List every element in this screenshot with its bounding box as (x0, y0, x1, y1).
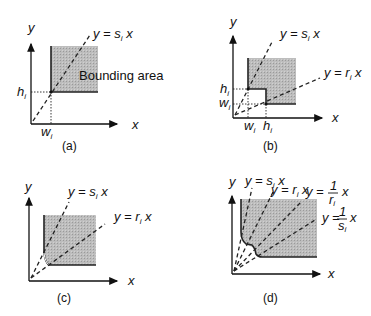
y-axis-label: y (228, 174, 237, 189)
panel-a: y x y = si x Bounding area hi wi (a) (17, 20, 164, 153)
line-si-label: y = si x (92, 26, 133, 43)
x-axis-label: x (331, 110, 339, 125)
corner-point (246, 87, 249, 90)
w-tick-label: wi (244, 118, 255, 135)
caption-b: (b) (263, 139, 278, 153)
caption-a: (a) (62, 139, 77, 153)
figure-canvas: y x y = si x Bounding area hi wi (a) y x… (0, 0, 371, 316)
label-suffix: x (341, 184, 349, 199)
x-axis-label: x (127, 273, 135, 288)
fraction-numerator: 1 (339, 204, 346, 219)
y-axis-label: y (24, 179, 33, 194)
panel-b: y x y = si x y = ri x hi wi wi hi (b) (219, 14, 362, 153)
line-ri-label: y = ri x (270, 182, 309, 199)
w-tick-label: wi (41, 124, 52, 141)
label-prefix: y = (305, 184, 324, 199)
line-si-label: y = si x (67, 184, 108, 201)
line-si-label: y = si x (279, 26, 320, 43)
h-tick-label: hi (17, 84, 26, 101)
panel-c: y x y = si x y = ri x (c) (24, 179, 152, 305)
y-axis-label: y (229, 14, 238, 29)
x-axis-label: x (131, 117, 139, 132)
panel-d: y x y = si x y = ri x y = 1 ri x y = 1 s… (228, 173, 357, 305)
line-ri-label: y = ri x (323, 65, 362, 82)
fraction-denominator: ri (329, 192, 335, 208)
bounding-area-shade (241, 199, 317, 257)
x-axis-label: x (327, 266, 335, 281)
fraction-numerator: 1 (330, 178, 337, 193)
caption-c: (c) (57, 291, 71, 305)
label-suffix: x (349, 210, 357, 225)
corner-point (264, 102, 267, 105)
line-ri-label: y = ri x (113, 209, 152, 226)
fraction-denominator: si (338, 218, 347, 234)
corner-point (49, 90, 52, 93)
h-tick-label-x: hi (263, 118, 272, 135)
caption-d: (d) (263, 291, 278, 305)
line-1-over-si-label: y = 1 si x (321, 204, 357, 234)
bounding-area-label: Bounding area (79, 68, 164, 83)
bounding-area-shade (44, 215, 96, 265)
y-axis-label: y (27, 20, 36, 35)
bounding-area-shade (248, 58, 296, 104)
